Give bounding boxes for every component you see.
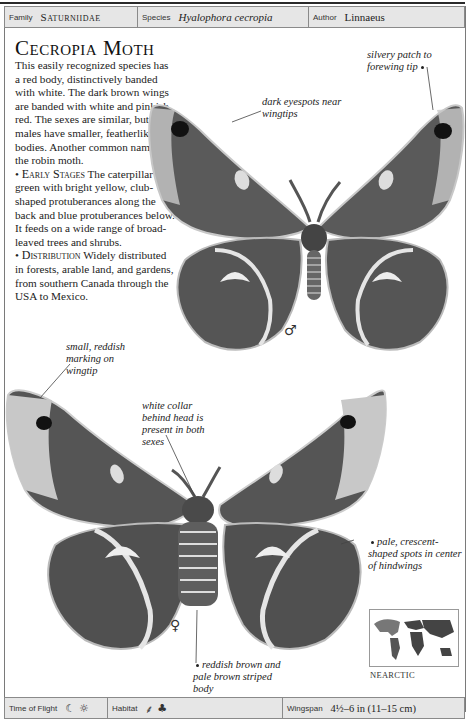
sun-icon: ☼ [79,702,89,715]
moon-icon: ☾ [65,702,75,715]
annotation-dark-eyespots: dark eyespots near wingtips [262,96,367,120]
annotation-silvery-patch: silvery patch to forewing tip [367,49,462,73]
wingspan-label: Wingspan [287,704,323,713]
wingspan-cell: Wingspan 4½–6 in (11–15 cm) [283,698,464,718]
female-symbol-icon: ♀ [170,617,180,633]
time-of-flight-label: Time of Flight [9,704,57,713]
annotation-striped-body: reddish brown and pale brown striped bod… [193,659,283,695]
annotation-white-collar: white collar behind head is present in b… [142,400,212,448]
pointer-dot [371,541,374,544]
footer-bar: Time of Flight ☾ ☼ Habitat ⸙ ♣ Wingspan … [4,697,465,719]
habitat-label: Habitat [112,704,137,713]
map-region-label: NEARCTIC [370,670,415,680]
annotation-small-reddish: small, reddish marking on wingtip [66,341,136,377]
range-map [369,609,459,667]
pointer-dot [196,664,199,667]
male-moth-image [149,105,463,349]
pointer-dot [421,66,424,69]
world-map-icon [370,610,458,666]
annotation-pale-crescent: pale, crescent-shaped spots in center of… [368,536,463,572]
wingspan-value: 4½–6 in (11–15 cm) [331,703,416,714]
tree-icon: ♣ [157,702,167,715]
male-symbol-icon: ♂ [284,322,297,338]
grass-icon: ⸙ [145,701,153,716]
time-of-flight-cell: Time of Flight ☾ ☼ [5,698,108,718]
habitat-cell: Habitat ⸙ ♣ [108,698,283,718]
